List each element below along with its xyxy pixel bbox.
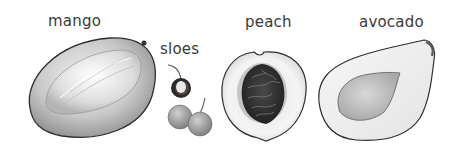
mango-illustration: [29, 38, 155, 137]
peach-illustration: [222, 52, 306, 141]
avocado-illustration: [319, 40, 435, 140]
sloes-label: sloes: [160, 40, 199, 58]
avocado-label: avocado: [359, 13, 424, 31]
sloes-illustration: [168, 65, 212, 136]
mango-label: mango: [48, 12, 101, 30]
peach-label: peach: [245, 13, 292, 31]
